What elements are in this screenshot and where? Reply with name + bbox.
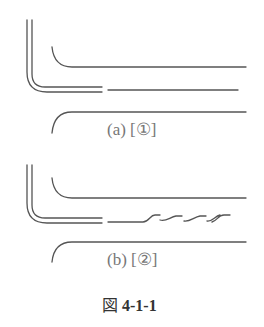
panel-a-inner-line	[32, 20, 102, 87]
figure-diagram	[0, 0, 264, 327]
caption-number: 4-1-1	[122, 297, 157, 314]
caption-prefix: 図	[102, 297, 118, 314]
panel-a-upper-curve	[52, 47, 246, 67]
panel-b-wavy-line	[108, 215, 230, 222]
panel-a-outer-line	[27, 20, 102, 92]
panel-a-label: (a) [①]	[107, 119, 156, 140]
panel-b-outer-line	[27, 165, 102, 223]
figure-caption: 図4-1-1	[102, 292, 157, 316]
panel-b-upper-curve	[52, 178, 246, 198]
panel-b-label: (b) [②]	[107, 249, 157, 270]
panel-a-drawing	[27, 20, 246, 133]
panel-b-drawing	[27, 165, 246, 262]
panel-b-inner-line	[32, 165, 102, 218]
